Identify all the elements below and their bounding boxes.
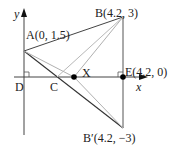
point-d-label: D xyxy=(15,81,24,93)
x-axis-label: x xyxy=(136,81,141,93)
point-b-label: B(4.2, 3) xyxy=(95,7,138,19)
point-a-label: A(0, 1.5) xyxy=(26,29,70,41)
point-e-label: E(4.2, 0) xyxy=(125,66,167,78)
point-x xyxy=(71,74,77,80)
point-x-label: X xyxy=(82,67,91,79)
y-axis-label: y xyxy=(14,8,19,20)
y-axis-arrow-icon xyxy=(21,8,27,17)
point-c-label: C xyxy=(50,81,58,93)
segment-x-bprime xyxy=(74,77,123,128)
point-bprime-label: B′(4.2, −3) xyxy=(83,132,135,144)
segment-a-x xyxy=(24,51,74,77)
right-angle-marker-d xyxy=(24,72,29,77)
